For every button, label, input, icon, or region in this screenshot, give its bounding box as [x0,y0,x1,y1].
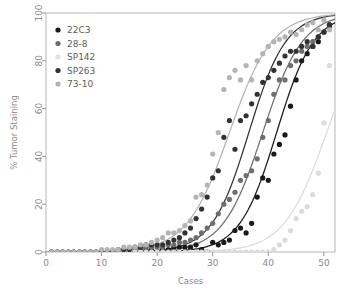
data-point [221,87,226,92]
data-point [110,247,115,252]
data-point [255,249,260,254]
data-point [99,247,104,252]
data-point [249,168,254,173]
legend: 22C328-8SP142SP26373-10 [55,25,95,89]
data-point [316,27,321,32]
legend-label-22c3[interactable]: 22C3 [67,25,90,35]
data-point [199,249,204,254]
data-point [299,209,304,214]
data-point [210,221,215,226]
data-point [132,245,137,250]
data-point [149,240,154,245]
data-point [227,118,232,123]
data-point [193,235,198,240]
data-point [221,240,226,245]
legend-marker-22c3 [55,27,60,32]
data-point [160,249,165,254]
legend-label-28-8[interactable]: 28-8 [67,39,88,49]
legend-label-sp263[interactable]: SP263 [67,66,95,76]
data-point [193,216,198,221]
data-point [232,68,237,73]
legend-marker-73-10 [55,81,60,86]
plot-frame [46,13,335,252]
legend-label-sp142[interactable]: SP142 [67,52,95,62]
data-point [321,30,326,35]
data-point [243,230,248,235]
data-point [243,113,248,118]
data-point [93,249,98,254]
data-point [321,120,326,125]
data-point [299,49,304,54]
data-point [271,68,276,73]
data-point [255,194,260,199]
y-tick-label: 60 [34,103,44,115]
data-point [271,39,276,44]
data-point [294,216,299,221]
data-point [305,51,310,56]
x-tick-label: 30 [207,258,219,268]
data-point [199,206,204,211]
data-layer [46,15,335,255]
data-point [116,247,121,252]
x-tick-label: 10 [96,258,108,268]
chart-container: 01020304050020406080100Cases% Tumor Stai… [0,0,349,296]
data-point [149,249,154,254]
data-point [282,34,287,39]
data-point [238,226,243,231]
data-point [177,240,182,245]
x-tick-label: 0 [43,258,49,268]
data-point [205,249,210,254]
data-point [166,249,171,254]
data-point [271,151,276,156]
data-point [177,228,182,233]
data-point [238,178,243,183]
data-point [294,32,299,37]
data-point [305,204,310,209]
data-point [277,242,282,247]
legend-label-73-10[interactable]: 73-10 [67,79,93,89]
data-point [305,44,310,49]
data-point [321,18,326,23]
data-point [155,237,160,242]
data-point [182,249,187,254]
data-point [177,249,182,254]
data-point [260,51,265,56]
data-point [216,168,221,173]
data-point [249,77,254,82]
legend-marker-28-8 [55,41,60,46]
data-point [105,247,110,252]
y-axis-title: % Tumor Staining [9,95,19,170]
data-point [249,101,254,106]
data-point [260,80,265,85]
data-point [182,230,187,235]
data-point [232,249,237,254]
data-point [305,39,310,44]
data-point [232,190,237,195]
data-point [277,37,282,42]
data-point [282,132,287,137]
y-tick-label: 80 [34,55,44,67]
data-point [171,237,176,242]
legend-marker-sp142 [55,54,60,59]
data-point [299,44,304,49]
data-point [288,228,293,233]
data-point [49,249,54,254]
data-point [88,249,93,254]
data-point [249,221,254,226]
y-tick-label: 20 [34,198,44,210]
data-point [243,173,248,178]
data-point [277,77,282,82]
data-point [316,34,321,39]
data-point [205,182,210,187]
data-point [227,197,232,202]
data-point [327,27,332,32]
data-point [316,171,321,176]
data-point [310,39,315,44]
data-point [221,135,226,140]
data-point [227,75,232,80]
data-point [288,30,293,35]
data-point [182,240,187,245]
data-point [238,118,243,123]
data-point [327,63,332,68]
data-point [55,249,60,254]
